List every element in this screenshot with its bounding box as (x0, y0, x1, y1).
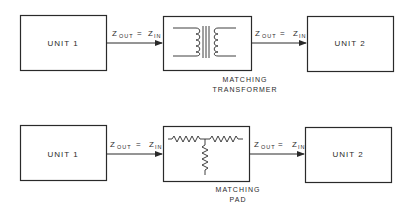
svg-text:Z: Z (148, 29, 154, 38)
unit-2-label: UNIT 2 (332, 150, 363, 159)
svg-text:Z: Z (149, 140, 155, 149)
svg-text:=: = (280, 29, 286, 38)
transformer-diagram: UNIT 1 Z OUT = Z IN MATCHING TRANSFORMER… (21, 16, 394, 94)
matching-pad-label-line1: MATCHING (216, 186, 261, 193)
svg-text:IN: IN (154, 33, 162, 39)
matching-transformer-label-line2: TRANSFORMER (212, 86, 277, 93)
svg-text:=: = (278, 140, 284, 149)
impedance-label-right: Z OUT = Z IN (255, 29, 307, 39)
impedance-matching-diagram: UNIT 1 Z OUT = Z IN MATCHING TRANSFORMER… (0, 0, 416, 210)
svg-text:IN: IN (298, 144, 306, 150)
svg-text:Z: Z (255, 29, 261, 38)
impedance-label-left: Z OUT = Z IN (112, 29, 162, 39)
svg-text:=: = (137, 29, 143, 38)
svg-text:OUT: OUT (117, 144, 132, 150)
unit-2-label: UNIT 2 (334, 39, 365, 48)
unit-1-label: UNIT 1 (47, 150, 78, 159)
svg-text:=: = (136, 140, 142, 149)
svg-text:Z: Z (254, 140, 260, 149)
unit-1-label: UNIT 1 (47, 39, 78, 48)
transformer-icon (173, 26, 236, 58)
svg-text:IN: IN (155, 144, 163, 150)
impedance-label-left: Z OUT = Z IN (110, 140, 163, 150)
svg-text:Z: Z (112, 29, 118, 38)
matching-pad-label-line2: PAD (230, 196, 247, 203)
svg-text:IN: IN (299, 33, 307, 39)
svg-text:OUT: OUT (119, 33, 134, 39)
impedance-label-right: Z OUT = Z IN (254, 140, 306, 150)
svg-text:Z: Z (292, 140, 298, 149)
pad-diagram: UNIT 1 Z OUT = Z IN MATCHING PAD Z OUT =… (21, 126, 392, 204)
matching-transformer-box (164, 17, 252, 71)
t-pad-resistor-icon (168, 136, 243, 175)
matching-pad-box (164, 127, 250, 182)
svg-text:Z: Z (293, 29, 299, 38)
svg-text:OUT: OUT (261, 144, 276, 150)
svg-text:Z: Z (110, 140, 116, 149)
svg-text:OUT: OUT (262, 33, 277, 39)
matching-transformer-label-line1: MATCHING (223, 76, 268, 83)
